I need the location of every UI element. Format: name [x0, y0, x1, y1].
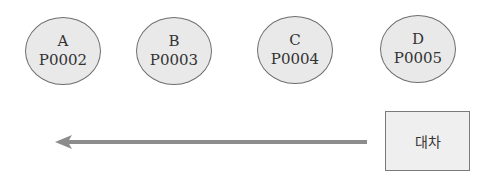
- box-label: 대차: [415, 131, 441, 151]
- cart-box: 대차: [385, 111, 470, 171]
